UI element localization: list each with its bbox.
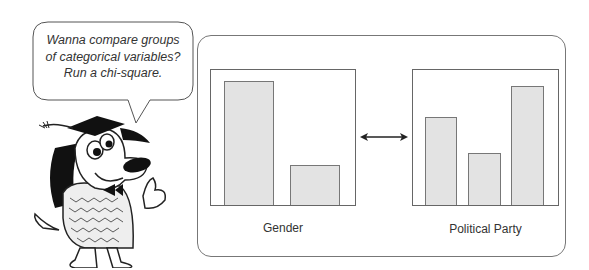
speech-line-3: Run a chi-square. xyxy=(33,65,193,82)
political-party-chart xyxy=(412,69,559,206)
gender-bar-1 xyxy=(224,81,274,205)
gender-chart xyxy=(210,69,356,206)
graduate-dog-mascot-icon xyxy=(25,108,185,268)
gender-bar-2 xyxy=(290,165,340,205)
party-bar-1 xyxy=(425,117,457,205)
speech-line-1: Wanna compare groups xyxy=(33,32,193,49)
speech-line-2: of categorical variables? xyxy=(33,49,193,66)
political-party-chart-label: Political Party xyxy=(412,222,559,236)
speech-bubble-text: Wanna compare groups of categorical vari… xyxy=(33,32,193,82)
gender-chart-label: Gender xyxy=(210,221,356,235)
party-bar-3 xyxy=(511,86,544,205)
party-bar-2 xyxy=(468,153,501,205)
double-headed-arrow-icon xyxy=(358,130,410,144)
